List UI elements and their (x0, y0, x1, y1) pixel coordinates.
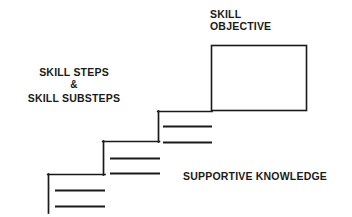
staircase-step-bottom (48, 174, 105, 213)
skill-objective-box (212, 46, 307, 111)
skill-substeps-label-line2: SKILL SUBSTEPS (12, 92, 136, 104)
staircase-step-top (158, 111, 212, 143)
skill-hierarchy-diagram: SKILL OBJECTIVE SKILL STEPS & SKILL SUBS… (0, 0, 352, 217)
skill-steps-label-line1: SKILL STEPS (12, 66, 136, 78)
skill-objective-label-line1: SKILL (210, 8, 271, 20)
diagram-canvas (0, 0, 352, 217)
skill-objective-label-line2: OBJECTIVE (210, 20, 271, 32)
skill-steps-label: SKILL STEPS & SKILL SUBSTEPS (12, 66, 136, 105)
skill-objective-label: SKILL OBJECTIVE (210, 8, 271, 33)
skill-steps-label-connector: & (12, 79, 136, 91)
supportive-knowledge-label: SUPPORTIVE KNOWLEDGE (183, 170, 327, 182)
staircase-step-middle (103, 141, 160, 175)
